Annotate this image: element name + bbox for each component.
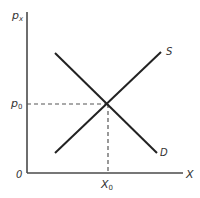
demand-curve-label: D	[160, 147, 168, 158]
supply-curve	[55, 52, 161, 153]
equilibrium-price-label: p0	[10, 97, 22, 111]
origin-label: 0	[16, 169, 22, 180]
supply-demand-diagram: px p0 0 X0 X S D	[0, 0, 200, 198]
equilibrium-quantity-label: X0	[100, 178, 113, 192]
supply-curve-label: S	[166, 46, 173, 57]
x-axis-label: X	[185, 168, 194, 181]
y-axis-label: px	[11, 9, 24, 23]
